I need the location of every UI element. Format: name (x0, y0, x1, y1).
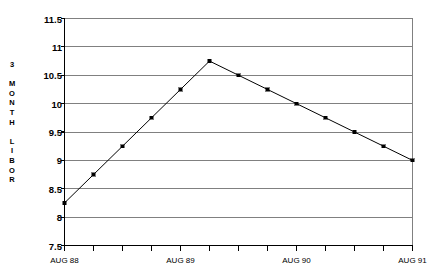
data-point-marker (63, 201, 66, 204)
data-point-marker (411, 159, 414, 162)
data-point-marker (266, 88, 269, 91)
data-point-marker (295, 102, 298, 105)
data-point-marker (121, 145, 124, 148)
data-point-marker (382, 145, 385, 148)
x-axis-ticks (65, 246, 413, 251)
line-chart: 3 MONTH LIBOR 11.51110.5109.598.587.5 AU… (0, 0, 427, 279)
data-point-marker (324, 116, 327, 119)
data-point-marker (92, 173, 95, 176)
data-point-marker (353, 130, 356, 133)
data-point-marker (150, 116, 153, 119)
plot-area (0, 0, 427, 279)
gridlines (65, 47, 413, 217)
data-point-marker (179, 88, 182, 91)
data-point-marker (208, 59, 211, 62)
data-point-marker (237, 74, 240, 77)
